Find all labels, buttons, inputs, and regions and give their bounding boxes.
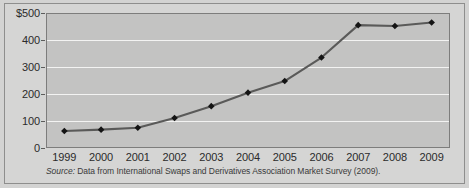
y-axis-tick: [41, 67, 45, 68]
x-axis-tick-label: 2004: [236, 151, 260, 163]
source-label: Source:: [46, 166, 75, 176]
y-axis-tick-label: 200: [22, 88, 40, 100]
gridline: [47, 121, 449, 122]
y-axis-tick-label: 400: [22, 34, 40, 46]
y-axis-tick: [41, 121, 45, 122]
x-axis-tick-label: 2006: [309, 151, 333, 163]
x-axis-tick-label: 2002: [162, 151, 186, 163]
y-axis-tick: [41, 94, 45, 95]
y-axis-tick: [41, 40, 45, 41]
gridline: [47, 67, 449, 68]
line-chart: 0100200300400$500 1999200020012002200320…: [0, 0, 469, 188]
source-text: Data from International Swaps and Deriva…: [75, 166, 380, 176]
gridline: [47, 94, 449, 95]
y-axis-tick-label: 300: [22, 61, 40, 73]
plot-area: [46, 13, 450, 148]
y-axis-tick-label: 100: [22, 115, 40, 127]
x-axis-tick-label: 2003: [199, 151, 223, 163]
x-axis-tick-label: 2000: [89, 151, 113, 163]
x-axis-tick-label: 2008: [383, 151, 407, 163]
x-axis-tick-label: 2001: [126, 151, 150, 163]
source-note: Source: Data from International Swaps an…: [46, 166, 380, 176]
y-axis-tick-label: 0: [34, 142, 40, 154]
x-axis: 1999200020012002200320042005200620072008…: [46, 149, 450, 167]
x-axis-tick-label: 1999: [52, 151, 76, 163]
x-axis-tick-label: 2007: [346, 151, 370, 163]
y-axis: 0100200300400$500: [0, 0, 44, 160]
x-axis-tick-label: 2009: [420, 151, 444, 163]
chart-figure: 0100200300400$500 1999200020012002200320…: [0, 0, 469, 188]
y-axis-tick: [41, 148, 45, 149]
y-axis-tick: [41, 13, 45, 14]
gridline: [47, 40, 449, 41]
x-axis-tick-label: 2005: [273, 151, 297, 163]
y-axis-tick-label: $500: [16, 7, 40, 19]
